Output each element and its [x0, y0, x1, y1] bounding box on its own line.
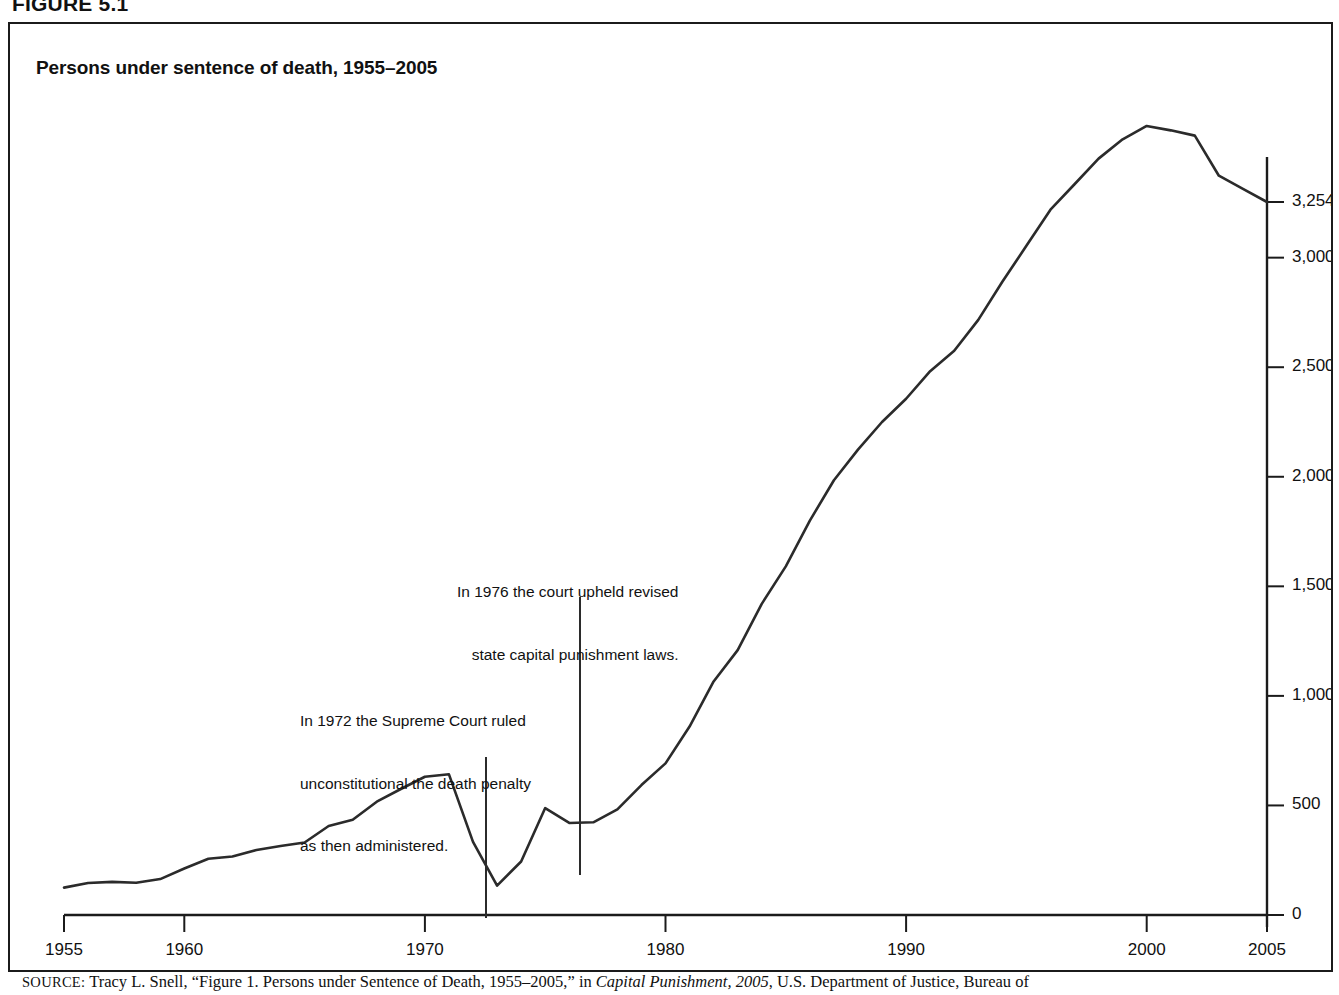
source-text-after: , U.S. Department of Justice, Bureau of: [769, 972, 1029, 991]
chart-plot-area: [10, 24, 1333, 972]
y-tick-label-1500: 1,500: [1292, 575, 1333, 595]
annotation-1972-line1: In 1972 the Supreme Court ruled: [300, 711, 531, 732]
annotation-1972-line3: as then administered.: [300, 836, 531, 857]
line-chart-svg: [10, 24, 1333, 972]
x-tick-label-2005: 2005: [1237, 940, 1297, 960]
x-tick-label-1980: 1980: [636, 940, 696, 960]
figure-page: FIGURE 5.1 Persons under sentence of dea…: [0, 0, 1339, 995]
x-tick-label-1955: 1955: [34, 940, 94, 960]
y-tick-label-1000: 1,000: [1292, 685, 1333, 705]
annotation-1972: In 1972 the Supreme Court ruled unconsti…: [300, 669, 531, 899]
y-tick-label-2000: 2,000: [1292, 466, 1333, 486]
y-tick-label-500: 500: [1292, 794, 1320, 814]
x-tick-label-1970: 1970: [395, 940, 455, 960]
y-axis-ticks: [1267, 202, 1284, 915]
data-series-line: [64, 126, 1267, 888]
figure-number-label: FIGURE 5.1: [12, 0, 128, 16]
x-tick-label-2000: 2000: [1117, 940, 1177, 960]
x-axis-ticks: [64, 915, 1267, 932]
y-tick-label-2500: 2,500: [1292, 356, 1333, 376]
y-tick-label-3000: 3,000: [1292, 247, 1333, 267]
x-tick-label-1960: 1960: [154, 940, 214, 960]
source-note: SOURCE: Tracy L. Snell, “Figure 1. Perso…: [22, 972, 1322, 992]
source-italic-title: Capital Punishment, 2005: [596, 972, 769, 991]
figure-container: Persons under sentence of death, 1955–20…: [8, 22, 1333, 972]
x-tick-label-1990: 1990: [876, 940, 936, 960]
annotation-1976-line1: In 1976 the court upheld revised: [457, 582, 678, 603]
y-tick-label-0: 0: [1292, 904, 1301, 924]
source-prefix: SOURCE:: [22, 974, 85, 990]
annotation-1976-line2: state capital punishment laws.: [457, 645, 678, 666]
y-tick-label-3254: 3,254: [1292, 191, 1333, 211]
annotation-1972-line2: unconstitutional the death penalty: [300, 774, 531, 795]
source-text-before: Tracy L. Snell, “Figure 1. Persons under…: [85, 972, 596, 991]
